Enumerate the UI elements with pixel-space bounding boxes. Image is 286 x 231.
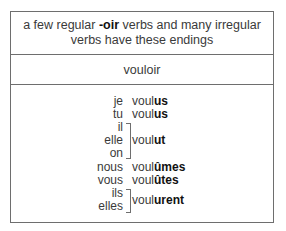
verb-form: voulûtes: [132, 174, 179, 187]
verb-infinitive: vouloir: [11, 56, 273, 85]
header-bold-ending: -oir: [99, 18, 119, 32]
row-il-elle-on: il elle on voulut: [11, 121, 273, 160]
row-ils-elles: ils elles voulurent: [11, 187, 273, 215]
verb-form: voulut: [132, 134, 165, 147]
bracket: [126, 189, 131, 213]
pronoun: on: [73, 147, 123, 160]
conjugation-rows: je voulus tu voulus il elle on voulut no…: [11, 85, 273, 222]
conjugation-table: a few regular -oir verbs and many irregu…: [10, 11, 274, 223]
header-line-2: verbs have these endings: [11, 33, 273, 48]
verb-form: voulurent: [132, 194, 184, 207]
pronoun: tu: [73, 108, 123, 121]
table-header: a few regular -oir verbs and many irregu…: [11, 12, 273, 55]
verb-form: voulus: [132, 108, 168, 121]
header-text: a few regular: [23, 18, 99, 32]
bracket: [126, 123, 131, 159]
pronoun: elles: [73, 200, 123, 213]
header-text-2: verbs and many irregular: [119, 18, 261, 32]
